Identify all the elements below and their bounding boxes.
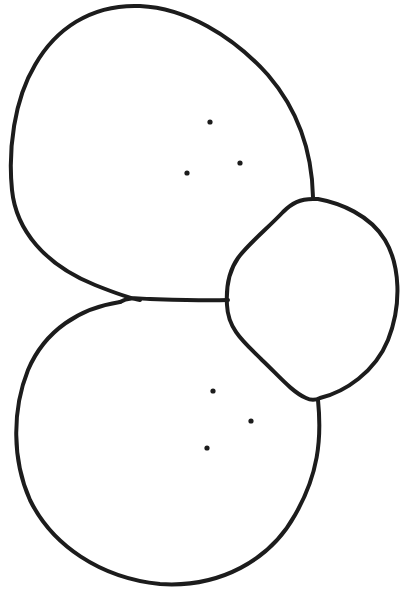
upper-cell-dot: [184, 170, 189, 175]
cell-diagram: [0, 0, 404, 591]
lower-cell-outline: [16, 302, 319, 584]
lower-cell-dot: [210, 388, 215, 393]
upper-cell-dot: [237, 160, 242, 165]
lower-cell-dot: [248, 418, 253, 423]
diagram-canvas: [0, 0, 404, 591]
upper-lower-seam: [120, 298, 228, 302]
upper-cell-dot: [207, 119, 212, 124]
lower-cell-dot: [204, 445, 209, 450]
right-cell-outline: [227, 199, 398, 400]
upper-cell-outline: [11, 6, 313, 300]
